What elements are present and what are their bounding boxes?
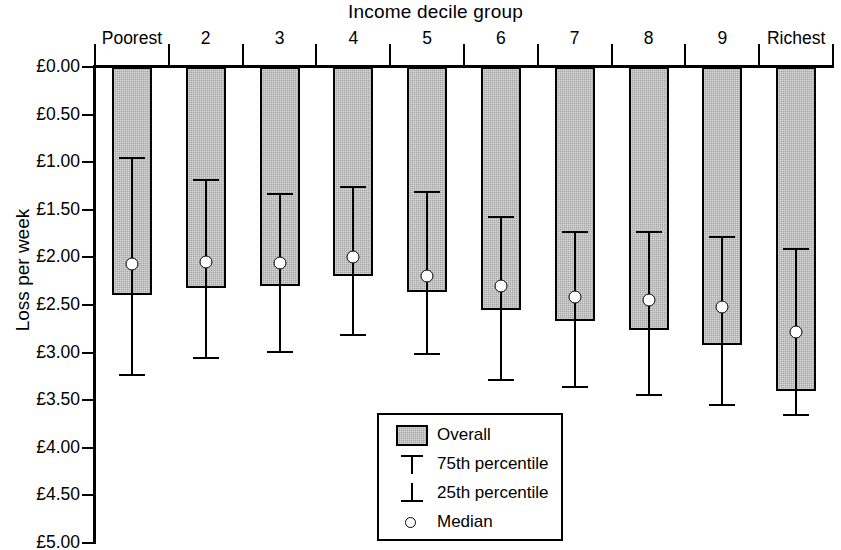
- whisker-stem-overlay: [205, 179, 207, 288]
- y-axis-tick: [82, 542, 94, 544]
- median-marker: [273, 257, 286, 270]
- legend-item[interactable]: 75th percentile: [379, 450, 561, 480]
- x-axis-category-label: Poorest: [102, 29, 162, 47]
- whisker-cap-25th: [119, 374, 145, 376]
- y-axis-tick-label: £4.50: [4, 486, 80, 503]
- y-axis-tick: [82, 352, 94, 354]
- y-axis-tick-label: £4.00: [4, 439, 80, 456]
- whisker-stem-overlay: [648, 231, 650, 330]
- y-axis-tick-label: £1.00: [4, 153, 80, 170]
- x-axis-tick: [463, 44, 465, 65]
- legend-item[interactable]: Median: [379, 508, 561, 538]
- x-axis-tick: [315, 44, 317, 65]
- y-axis-tick: [82, 161, 94, 163]
- y-axis-tick-label: £1.50: [4, 201, 80, 218]
- y-axis-tick-label: £0.50: [4, 106, 80, 123]
- y-axis-tick-label: £3.50: [4, 391, 80, 408]
- y-axis-tick-label: £2.00: [4, 248, 80, 265]
- x-axis-tick: [611, 44, 613, 65]
- y-axis-tick: [82, 494, 94, 496]
- whisker-cap-25th: [783, 414, 809, 416]
- whisker-cap-75th: [193, 179, 219, 181]
- median-marker: [494, 279, 507, 292]
- y-axis-tick-label: £2.50: [4, 296, 80, 313]
- whisker-stem-overlay: [131, 157, 133, 295]
- median-marker: [421, 270, 434, 283]
- whisker-stem-overlay: [721, 236, 723, 345]
- whisker-cap-75th: [636, 231, 662, 233]
- y-axis-tick: [82, 66, 94, 68]
- x-axis-category-label: 5: [422, 29, 432, 47]
- x-axis-tick: [758, 44, 760, 65]
- x-axis-category-label: 9: [717, 29, 727, 47]
- y-axis-tick: [82, 209, 94, 211]
- whisker-stem-overlay: [574, 231, 576, 321]
- median-marker: [642, 294, 655, 307]
- y-axis-tick: [82, 399, 94, 401]
- chart-figure: Income decile group Loss per week £0.00£…: [0, 0, 841, 550]
- legend-item[interactable]: Overall: [379, 421, 561, 451]
- y-axis-ticks: £0.00£0.50£1.00£1.50£2.00£2.50£3.00£3.50…: [0, 0, 80, 550]
- median-marker: [716, 300, 729, 313]
- x-axis-tick: [832, 44, 834, 65]
- whisker-stem-overlay: [795, 248, 797, 391]
- legend-item[interactable]: 25th percentile: [379, 479, 561, 509]
- x-axis-tick: [684, 44, 686, 65]
- whisker-cap-25th: [340, 334, 366, 336]
- legend-tee-down-icon: [396, 452, 428, 476]
- x-axis-category-label: 2: [201, 29, 211, 47]
- x-axis-category-label: 3: [275, 29, 285, 47]
- y-axis-tick: [82, 114, 94, 116]
- x-axis-tick: [94, 44, 96, 65]
- x-axis-category-label: 4: [348, 29, 358, 47]
- x-axis-tick: [168, 44, 170, 65]
- whisker-cap-25th: [267, 351, 293, 353]
- y-axis-tick: [82, 304, 94, 306]
- x-axis-category-label: Richest: [767, 29, 825, 47]
- x-axis-category-label: 7: [570, 29, 580, 47]
- whisker-cap-25th: [562, 386, 588, 388]
- whisker-cap-75th: [340, 186, 366, 188]
- chart-legend: Overall75th percentile25th percentileMed…: [377, 413, 563, 541]
- median-marker: [568, 291, 581, 304]
- whisker-cap-75th: [562, 231, 588, 233]
- legend-tee-up-icon: [396, 481, 428, 505]
- y-axis-tick-label: £3.00: [4, 344, 80, 361]
- y-axis-tick-label: £0.00: [4, 58, 80, 75]
- whisker-cap-25th: [193, 357, 219, 359]
- whisker-cap-75th: [119, 157, 145, 159]
- x-axis-tick: [389, 44, 391, 65]
- whisker-cap-25th: [488, 379, 514, 381]
- median-marker: [790, 325, 803, 338]
- whisker-cap-75th: [267, 193, 293, 195]
- y-axis-tick: [82, 256, 94, 258]
- x-axis-category-label: 8: [644, 29, 654, 47]
- median-marker: [125, 258, 138, 271]
- x-axis-tick: [537, 44, 539, 65]
- whisker-cap-75th: [783, 248, 809, 250]
- whisker-cap-75th: [414, 191, 440, 193]
- legend-label: Overall: [437, 425, 491, 445]
- legend-label: 25th percentile: [437, 483, 549, 503]
- whisker-cap-25th: [636, 394, 662, 396]
- whisker-cap-75th: [488, 216, 514, 218]
- legend-circle-icon: [405, 517, 416, 528]
- whisker-cap-75th: [709, 236, 735, 238]
- whisker-stem-overlay: [279, 193, 281, 286]
- x-axis-category-label: 6: [496, 29, 506, 47]
- legend-label: Median: [437, 512, 493, 532]
- whisker-stem-overlay: [500, 216, 502, 310]
- legend-label: 75th percentile: [437, 454, 549, 474]
- whisker-cap-25th: [414, 353, 440, 355]
- whisker-cap-25th: [709, 404, 735, 406]
- y-axis-tick-label: £5.00: [4, 534, 80, 550]
- y-axis-tick: [82, 447, 94, 449]
- legend-swatch-icon: [396, 425, 428, 446]
- chart-title: Income decile group: [0, 0, 841, 24]
- median-marker: [199, 256, 212, 269]
- x-axis-tick: [242, 44, 244, 65]
- median-marker: [347, 251, 360, 264]
